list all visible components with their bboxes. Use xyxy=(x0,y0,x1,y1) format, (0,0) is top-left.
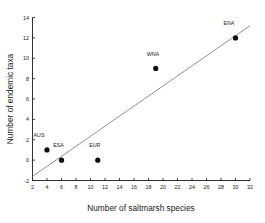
x-tick-label: 18 xyxy=(146,184,152,190)
x-tick-label: 20 xyxy=(160,184,166,190)
y-tick-label: 6 xyxy=(26,96,29,102)
x-axis-title: Number of saltmarsh species xyxy=(87,203,194,213)
y-axis-title: Number of endemic taxa xyxy=(5,53,15,144)
x-tick-label: 28 xyxy=(218,184,224,190)
scatter-plot-figure: 2468101214161820222426283032 -2024681012… xyxy=(0,0,265,223)
y-tick-label: 8 xyxy=(26,76,29,82)
regression-trend-line xyxy=(33,26,251,177)
y-tick-label: 10 xyxy=(23,55,29,61)
x-tick-label: 8 xyxy=(75,184,78,190)
x-tick-label: 4 xyxy=(46,184,49,190)
y-axis-tick-labels: -202468101214 xyxy=(23,15,29,184)
data-point-label: AUS xyxy=(34,132,45,138)
data-point xyxy=(95,158,100,163)
x-tick-label: 22 xyxy=(175,184,181,190)
data-point-label: EUR xyxy=(89,142,100,148)
y-tick-label: -2 xyxy=(24,178,29,184)
data-point-label: WNA xyxy=(147,51,160,57)
y-tick-label: 12 xyxy=(23,35,29,41)
y-tick-label: 0 xyxy=(26,157,29,163)
data-point xyxy=(153,66,158,71)
y-tick-label: 2 xyxy=(26,137,29,143)
x-tick-label: 26 xyxy=(204,184,210,190)
data-point-label: ESA xyxy=(53,142,64,148)
data-point xyxy=(59,158,64,163)
data-point-labels: AUSESAEURWNAENA xyxy=(34,20,235,148)
x-tick-label: 30 xyxy=(233,184,239,190)
x-tick-label: 14 xyxy=(117,184,123,190)
data-point-label: ENA xyxy=(224,20,235,26)
x-tick-label: 16 xyxy=(131,184,137,190)
x-tick-label: 6 xyxy=(60,184,63,190)
x-tick-label: 12 xyxy=(102,184,108,190)
x-tick-label: 24 xyxy=(189,184,195,190)
x-axis-tick-labels: 2468101214161820222426283032 xyxy=(31,184,253,190)
x-tick-label: 10 xyxy=(88,184,94,190)
data-point xyxy=(44,147,49,152)
x-tick-label: 32 xyxy=(247,184,253,190)
plot-canvas: 2468101214161820222426283032 -2024681012… xyxy=(0,0,265,223)
y-tick-label: 4 xyxy=(26,116,29,122)
x-tick-label: 2 xyxy=(31,184,34,190)
data-point xyxy=(233,35,238,40)
y-tick-label: 14 xyxy=(23,15,29,21)
